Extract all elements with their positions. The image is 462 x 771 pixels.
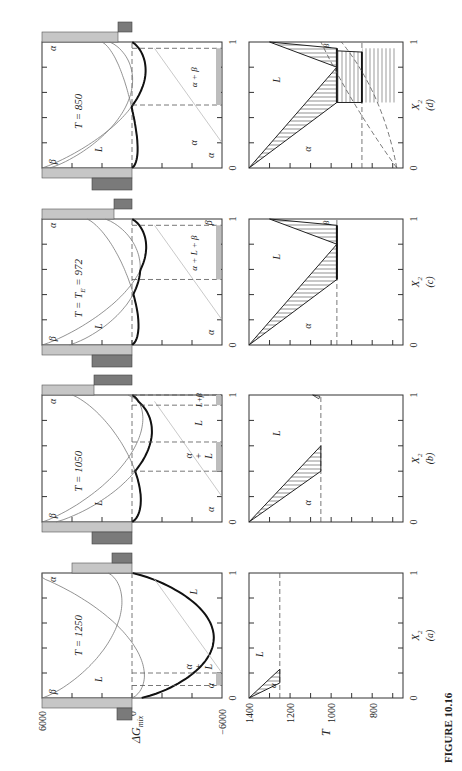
figure-stage: FIGURE 10.16 6000 0 −6000 ΔGmix 1400 120… bbox=[0, 0, 462, 771]
dg-axis-labels: 6000 0 −6000 ΔGmix bbox=[37, 709, 228, 744]
alpha-label: α bbox=[302, 500, 313, 506]
alpha-region-label: α bbox=[205, 152, 216, 158]
pure2-bar-light bbox=[72, 563, 132, 573]
pure1-bar-dark bbox=[92, 178, 132, 190]
alpha-region-label: α bbox=[205, 329, 216, 335]
ytick-6000: 6000 bbox=[37, 711, 48, 731]
x-axis-title: X2 bbox=[409, 99, 424, 111]
pure1-bar-dark bbox=[92, 532, 132, 544]
alpha-label: α bbox=[47, 576, 58, 582]
gibbs-chart-b: βLααT = 1050α+LLL+β01 bbox=[42, 375, 238, 544]
xtick-0: 0 bbox=[227, 343, 238, 348]
pure2-bar-light bbox=[42, 385, 94, 395]
pure2-bar-dark bbox=[114, 199, 132, 209]
panel-c: βLααT = TE = 972α + L + ββ01αLβ01X2(c) bbox=[42, 199, 436, 367]
panel-title: T = 850 bbox=[72, 93, 84, 129]
panel-sublabel: (a) bbox=[424, 629, 436, 641]
panel-sublabel: (d) bbox=[424, 99, 436, 111]
panel-a: βLααT = 1250α+LL01αL01X2(a) bbox=[42, 553, 436, 720]
panel-sublabel: (c) bbox=[424, 276, 436, 288]
x-axis-title: X2 bbox=[409, 453, 424, 465]
panel-title: T = 1050 bbox=[72, 450, 84, 491]
alpha-beta-region bbox=[337, 51, 362, 103]
xtick-1: 1 bbox=[227, 571, 238, 576]
pure1-bar-light bbox=[42, 168, 132, 178]
xtick-0: 0 bbox=[227, 166, 238, 171]
L-label: L bbox=[93, 323, 104, 330]
alpha-region-label: α bbox=[188, 139, 199, 145]
gibbs-chart-a: βLααT = 1250α+LL01 bbox=[42, 553, 238, 720]
two-phase-band bbox=[216, 225, 221, 279]
xtick-1: 1 bbox=[227, 40, 238, 45]
figure-caption-label: FIGURE 10.16 bbox=[442, 692, 454, 763]
xtick-1: 1 bbox=[227, 393, 238, 398]
pure2-bar-dark bbox=[94, 375, 132, 385]
L-plus-beta-label: L+β bbox=[195, 393, 204, 408]
xtick-1: 1 bbox=[408, 40, 419, 45]
xtick-0: 0 bbox=[408, 520, 419, 525]
L-label: L bbox=[254, 651, 265, 658]
pure1-bar-dark bbox=[117, 708, 132, 720]
xtick-0: 0 bbox=[227, 520, 238, 525]
panels: βLααT = 1250α+LL01αL01X2(a)βLααT = 1050α… bbox=[42, 22, 436, 720]
phase-diagram-a: αL01X2(a) bbox=[249, 571, 436, 701]
panel-d: βLααT = 850α + βα01αLβ01X2(d) bbox=[42, 22, 436, 190]
x-axis-title: X2 bbox=[409, 630, 424, 642]
two-phase-band bbox=[216, 442, 221, 471]
alpha-L-beta-label: α + L + β bbox=[189, 235, 199, 271]
two-phase-band bbox=[216, 395, 221, 405]
alpha-label: α bbox=[268, 683, 278, 688]
phase-diagram-d: αLβ01X2(d) bbox=[249, 40, 436, 171]
phase-diagram-c: αLβ01X2(c) bbox=[249, 217, 436, 348]
phase-diagram-b: αL01X2(b) bbox=[249, 393, 436, 525]
ytick-neg6000: −6000 bbox=[217, 709, 228, 735]
xtick-1: 1 bbox=[408, 571, 419, 576]
two-phase-band bbox=[216, 48, 221, 105]
figure-svg: FIGURE 10.16 6000 0 −6000 ΔGmix 1400 120… bbox=[0, 0, 462, 771]
pure1-bar-light bbox=[42, 522, 132, 532]
L-region-label: L bbox=[188, 589, 199, 596]
panel-b: βLααT = 1050α+LLL+β01αL01X2(b) bbox=[42, 375, 436, 544]
ttick-1400: 1400 bbox=[244, 703, 255, 723]
ttick-1200: 1200 bbox=[285, 703, 296, 723]
pure2-bar-light bbox=[42, 209, 114, 219]
alpha-label: α bbox=[302, 146, 313, 152]
alpha-label: α bbox=[47, 222, 58, 228]
L-region-label: L bbox=[193, 420, 204, 427]
xtick-0: 0 bbox=[408, 343, 419, 348]
ttick-800: 800 bbox=[368, 703, 379, 718]
xtick-0: 0 bbox=[408, 696, 419, 701]
t-axis-labels: 1400 1200 1000 800 T bbox=[244, 703, 379, 736]
L-label: L bbox=[203, 664, 214, 671]
ttick-1000: 1000 bbox=[326, 703, 337, 723]
alpha-region-label: α bbox=[205, 682, 216, 688]
x-axis-title: X2 bbox=[409, 276, 424, 288]
two-phase-band bbox=[216, 673, 221, 686]
L-label: L bbox=[271, 254, 282, 261]
L-label: L bbox=[93, 500, 104, 507]
alpha-plus-beta-label: α + β bbox=[189, 67, 199, 87]
pure2-bar-dark bbox=[118, 22, 132, 32]
pure1-bar-light bbox=[42, 345, 132, 355]
panel-title: T = 1250 bbox=[72, 615, 84, 656]
panel-sublabel: (b) bbox=[424, 452, 436, 464]
pure2-bar-dark bbox=[112, 553, 132, 563]
alpha-region-label: α bbox=[205, 506, 216, 512]
pure1-bar-light bbox=[42, 698, 132, 708]
xtick-0: 0 bbox=[408, 166, 419, 171]
alpha-label: α bbox=[302, 323, 313, 329]
L-label: L bbox=[93, 676, 104, 683]
xtick-1: 1 bbox=[408, 217, 419, 222]
alpha-beta-extension bbox=[362, 48, 397, 102]
xtick-0: 0 bbox=[227, 696, 238, 701]
xtick-1: 1 bbox=[227, 217, 238, 222]
xtick-1: 1 bbox=[408, 393, 419, 398]
L-label: L bbox=[271, 77, 282, 84]
pure1-bar-dark bbox=[92, 355, 132, 367]
gibbs-chart-d: βLααT = 850α + βα01 bbox=[42, 22, 238, 190]
L-label: L bbox=[93, 146, 104, 153]
L-label: L bbox=[203, 453, 214, 460]
t-axis-title: T bbox=[319, 728, 333, 736]
L-label: L bbox=[271, 430, 282, 437]
gibbs-chart-c: βLααT = TE = 972α + L + ββ01 bbox=[42, 199, 238, 367]
